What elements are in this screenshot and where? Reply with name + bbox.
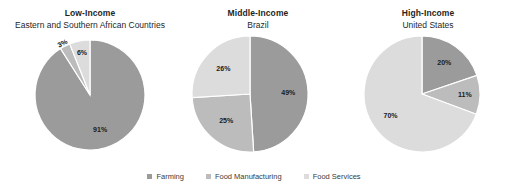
pie-slice-label: 25% [219,117,234,124]
chart-legend: Farming Food Manufacturing Food Services [0,172,508,192]
pie-chart-middle-income: 49%25%26% [182,34,334,160]
panel-header: High-Income United States [352,8,504,31]
chart-panel-low-income: Low-Income Eastern and Southern African … [14,0,166,170]
pie-slice[interactable] [250,36,308,152]
pie-slice-label: 26% [216,65,231,72]
legend-label: Farming [156,172,184,181]
legend-item-food-services[interactable]: Food Services [304,172,361,181]
chart-panel-middle-income: Middle-Income Brazil 49%25%26% [182,0,334,170]
chart-panel-high-income: High-Income United States 20%11%70% [352,0,504,170]
pie-chart-figure: Low-Income Eastern and Southern African … [0,0,508,194]
panel-header: Middle-Income Brazil [182,8,334,31]
pie-container: 20%11%70% [352,34,504,160]
pie-container: 91%3%6% [14,38,166,158]
panel-subtitle: Eastern and Southern African Countries [14,20,166,31]
pie-chart-low-income: 91%3%6% [14,38,166,158]
panel-title: High-Income [352,8,504,19]
legend-label: Food Services [313,172,361,181]
pie-slice-label: 70% [384,112,399,119]
panel-header: Low-Income Eastern and Southern African … [14,8,166,31]
pie-slice-label: 6% [77,49,88,56]
pie-chart-high-income: 20%11%70% [352,34,504,160]
panel-subtitle: United States [352,20,504,31]
panel-subtitle: Brazil [182,20,334,31]
legend-label: Food Manufacturing [215,172,282,181]
pie-slice-label: 49% [281,89,296,96]
pie-slice-label: 91% [93,126,108,133]
pie-slice-label: 20% [437,59,452,66]
panel-title: Middle-Income [182,8,334,19]
legend-item-food-manufacturing[interactable]: Food Manufacturing [206,172,282,181]
legend-swatch-icon [304,174,309,179]
legend-swatch-icon [147,174,152,179]
pie-slice-label: 11% [458,91,472,98]
pie-container: 49%25%26% [182,34,334,160]
legend-item-farming[interactable]: Farming [147,172,184,181]
legend-swatch-icon [206,174,211,179]
panel-title: Low-Income [14,8,166,19]
